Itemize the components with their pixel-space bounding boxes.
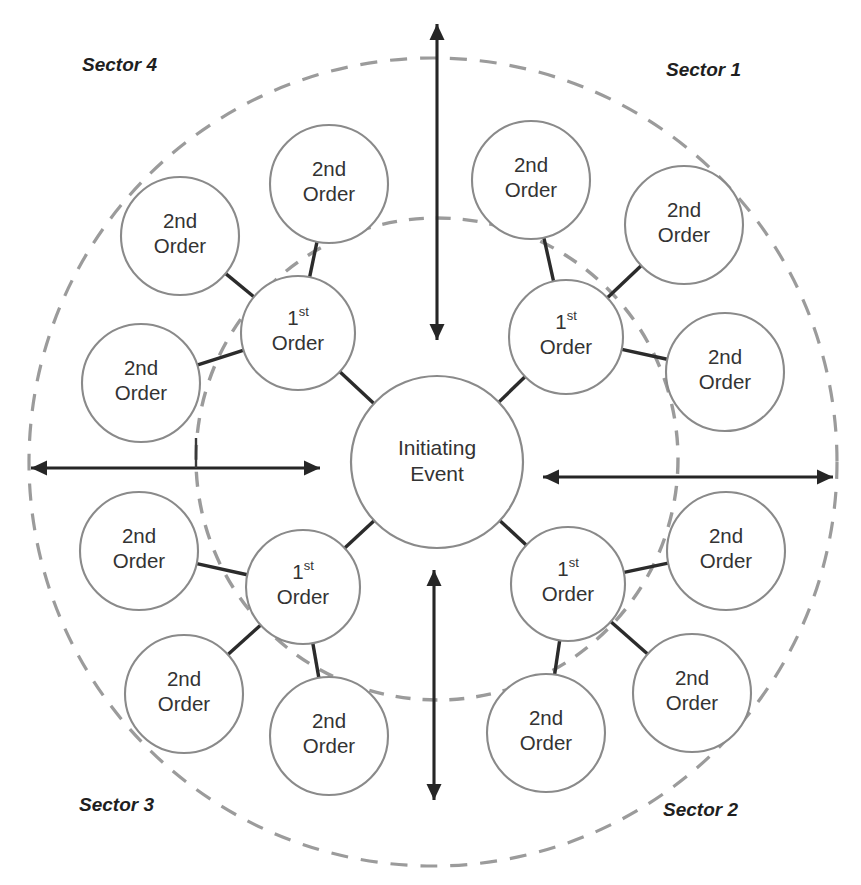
sector-label-1: Sector 1	[666, 59, 741, 80]
axis-arrow-left-head-end	[31, 461, 47, 476]
sector-label-2: Sector 2	[663, 799, 738, 820]
connector-first-order-sector2-to-second-order-s2-a	[623, 563, 669, 573]
radial-diagram-canvas: 2ndOrder2ndOrder2ndOrder2ndOrder2ndOrder…	[0, 0, 861, 885]
axis-arrow-top-head-start	[430, 324, 445, 340]
diagram-svg: 2ndOrder2ndOrder2ndOrder2ndOrder2ndOrder…	[0, 0, 861, 885]
connector-initiating-event-to-first-order-sector2	[499, 520, 527, 546]
connector-initiating-event-to-first-order-sector1	[498, 376, 526, 403]
axis-arrow-left-head-start	[304, 461, 320, 476]
connector-first-order-sector2-to-second-order-s2-b	[610, 621, 648, 655]
connector-first-order-sector1-to-second-order-s1-c	[621, 349, 669, 359]
connector-first-order-sector3-to-second-order-s3-a	[313, 642, 319, 679]
connector-first-order-sector3-to-second-order-s3-c	[196, 563, 249, 575]
connector-first-order-sector1-to-second-order-s1-b	[607, 265, 642, 299]
axis-arrow-bottom-head-end	[427, 784, 442, 800]
connector-initiating-event-to-first-order-sector4	[339, 371, 375, 404]
axis-arrow-left	[31, 461, 320, 476]
axis-arrow-right-head-end	[817, 470, 833, 485]
axis-arrow-bottom-head-start	[427, 570, 442, 586]
connector-first-order-sector3-to-second-order-s3-b	[227, 624, 261, 655]
connector-initiating-event-to-first-order-sector3	[344, 520, 375, 549]
connector-first-order-sector1-to-second-order-s1-a	[544, 237, 554, 283]
connector-first-order-sector2-to-second-order-s2-c	[554, 639, 559, 675]
axis-arrow-bottom	[427, 570, 442, 800]
connector-first-order-sector4-to-second-order-s4-b	[225, 273, 255, 298]
connector-first-order-sector4-to-second-order-s4-c	[309, 241, 317, 278]
axis-arrow-top	[430, 24, 445, 340]
axis-arrow-right	[543, 470, 833, 485]
sector-label-3: Sector 3	[79, 794, 154, 815]
sector-label-4: Sector 4	[82, 54, 157, 75]
axis-arrow-right-head-start	[543, 470, 559, 485]
axis-arrow-top-head-end	[430, 24, 445, 40]
